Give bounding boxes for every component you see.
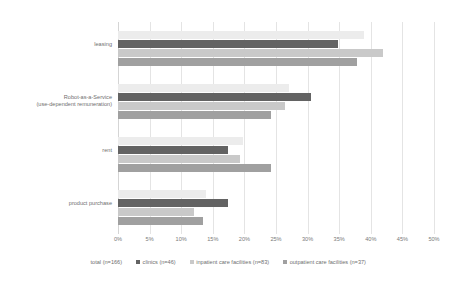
x-tick-label: 15%: [207, 236, 218, 242]
bar-group: [118, 190, 434, 226]
bar-row: [118, 84, 434, 92]
bar-row: [118, 111, 434, 119]
x-tick-label: 5%: [146, 236, 154, 242]
x-tick-label: 10%: [176, 236, 187, 242]
bar-group: [118, 31, 434, 67]
bar-outpatient[interactable]: [118, 164, 271, 172]
bar-clinics[interactable]: [118, 93, 311, 101]
bar-row: [118, 199, 434, 207]
legend-swatch-icon: [190, 260, 194, 264]
legend-label: outpatient care facilities (n=37): [290, 259, 366, 265]
x-tick-label: 0%: [114, 236, 122, 242]
bar-row: [118, 217, 434, 225]
bar-outpatient[interactable]: [118, 58, 357, 66]
legend-item-clinics[interactable]: clinics (n=46): [136, 259, 176, 265]
bar-row: [118, 137, 434, 145]
bar-outpatient[interactable]: [118, 111, 271, 119]
bar-inpatient[interactable]: [118, 155, 240, 163]
bar-row: [118, 58, 434, 66]
legend-label: inpatient care facilities (n=83): [196, 259, 269, 265]
legend-swatch-icon: [136, 260, 140, 264]
bar-row: [118, 164, 434, 172]
category-label: Robot-as-a-Service (use-dependent remune…: [0, 94, 112, 109]
chart-legend: total (n=166)clinics (n=46)inpatient car…: [0, 259, 450, 265]
bar-row: [118, 102, 434, 110]
x-tick-label: 30%: [302, 236, 313, 242]
x-axis-tick-labels: 0%5%10%15%20%25%30%35%40%45%50%: [118, 236, 434, 248]
bar-inpatient[interactable]: [118, 208, 194, 216]
x-tick-label: 35%: [334, 236, 345, 242]
legend-label: total (n=166): [91, 259, 123, 265]
legend-item-outpatient[interactable]: outpatient care facilities (n=37): [283, 259, 366, 265]
bar-row: [118, 155, 434, 163]
plot-area: [118, 22, 434, 234]
bar-total[interactable]: [118, 190, 206, 198]
bar-row: [118, 190, 434, 198]
bar-row: [118, 31, 434, 39]
bar-row: [118, 208, 434, 216]
bar-chart: leasingRobot-as-a-Service (use-dependent…: [0, 0, 450, 286]
bar-total[interactable]: [118, 137, 243, 145]
bar-clinics[interactable]: [118, 199, 228, 207]
bar-clinics[interactable]: [118, 146, 228, 154]
bar-row: [118, 40, 434, 48]
legend-item-total[interactable]: total (n=166): [84, 259, 122, 265]
category-label: product purchase: [0, 200, 112, 208]
x-tick-label: 45%: [397, 236, 408, 242]
legend-label: clinics (n=46): [143, 259, 176, 265]
category-label: rent: [0, 147, 112, 155]
x-tick-label: 25%: [270, 236, 281, 242]
bar-inpatient[interactable]: [118, 49, 383, 57]
bar-total[interactable]: [118, 84, 289, 92]
bar-row: [118, 93, 434, 101]
bar-row: [118, 146, 434, 154]
bar-group: [118, 84, 434, 120]
bar-outpatient[interactable]: [118, 217, 203, 225]
legend-item-inpatient[interactable]: inpatient care facilities (n=83): [190, 259, 269, 265]
category-label: leasing: [0, 41, 112, 49]
bar-inpatient[interactable]: [118, 102, 285, 110]
legend-swatch-icon: [84, 260, 88, 264]
bar-total[interactable]: [118, 31, 364, 39]
bar-row: [118, 49, 434, 57]
bar-clinics[interactable]: [118, 40, 338, 48]
bar-group: [118, 137, 434, 173]
x-tick-label: 20%: [239, 236, 250, 242]
gridline-50: [434, 22, 435, 234]
x-tick-label: 40%: [365, 236, 376, 242]
legend-swatch-icon: [283, 260, 287, 264]
x-tick-label: 50%: [428, 236, 439, 242]
